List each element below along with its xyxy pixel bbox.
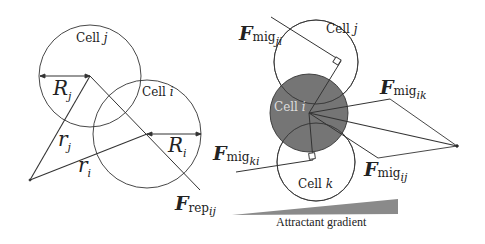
left-labels: Cell j Cell i Rj Ri rj ri Frepij (52, 31, 217, 218)
force-ij-label: Fmigij (363, 158, 408, 184)
left-panel (29, 25, 201, 190)
force-ji-label: Fmigji (238, 22, 282, 48)
cell-k-label: Cell k (298, 177, 333, 191)
origin-dot (29, 179, 31, 181)
right-angle-icon (333, 57, 341, 65)
cell-j-label: Cell j (76, 31, 108, 45)
cell-i-label: Cell i (142, 85, 174, 99)
radius-j-label: Rj (52, 76, 72, 103)
arrowhead-icon (40, 74, 45, 78)
cell-i-right-label: Cell i (274, 100, 306, 114)
repulsion-force-label: Frepij (174, 192, 217, 218)
radius-i-label: Ri (167, 133, 187, 160)
cell-j-right-label: Cell j (326, 22, 358, 36)
force-ik-label: Fmigik (379, 76, 427, 102)
force-ki-label: Fmigki (212, 142, 260, 168)
right-angle-icon (309, 153, 316, 160)
gradient-label: Attractant gradient (276, 215, 367, 229)
diagram: Cell j Cell i Rj Ri rj ri Frepij Cell j … (0, 0, 485, 244)
position-j-label: rj (58, 127, 72, 154)
arrowhead-icon (196, 132, 201, 136)
right-panel (232, 17, 458, 215)
